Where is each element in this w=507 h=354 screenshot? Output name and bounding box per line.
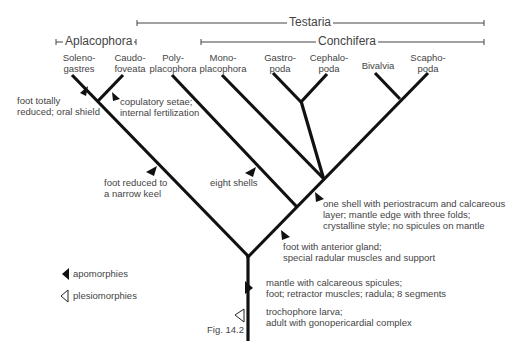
figure-label: Fig. 14.2: [207, 324, 244, 335]
taxon-line: Poly-: [145, 52, 201, 63]
character-line: copulatory setae;: [120, 96, 199, 107]
character-line: foot totally: [17, 95, 100, 106]
taxon-line: Gastro-: [260, 52, 300, 63]
character-testaria: foot with anterior gland; special radula…: [283, 241, 435, 263]
character-aplacophora: foot reduced to a narrow keel: [104, 177, 167, 199]
character-line: layer; mantle edge with three folds;: [323, 209, 505, 220]
character-line: crystalline style; no spicules on mantle: [323, 220, 505, 231]
group-label-testaria: Testaria: [287, 16, 333, 29]
taxon-line: gastres: [54, 63, 104, 74]
taxon-line: poda: [408, 63, 448, 74]
taxon-line: Mono-: [198, 52, 248, 63]
character-caudofoveata: copulatory setae; internal fertilization: [120, 96, 199, 118]
character-line: a narrow keel: [104, 188, 167, 199]
character-line: foot with anterior gland;: [283, 241, 435, 252]
legend-plesiomorphies: plesiomorphies: [73, 290, 137, 301]
character-line: trochophore larva;: [266, 306, 412, 317]
character-line: foot; retractor muscles; radula; 8 segme…: [266, 288, 446, 299]
group-label-conchifera: Conchifera: [316, 35, 378, 48]
taxon-line: placophora: [145, 63, 201, 74]
character-solenogastres: foot totally reduced; oral shield: [17, 95, 100, 117]
taxon-line: placophora: [198, 63, 248, 74]
taxon-monoplacophora: Mono- placophora: [198, 52, 248, 74]
taxon-scaphopoda: Scapho- poda: [408, 52, 448, 74]
character-line: mantle with calcareous spicules;: [266, 277, 446, 288]
character-line: one shell with periostracum and calcareo…: [323, 198, 505, 209]
taxon-gastropoda: Gastro- poda: [260, 52, 300, 74]
taxon-cephalopoda: Cephalo- poda: [306, 52, 352, 74]
character-line: special radular muscles and support: [283, 252, 435, 263]
character-line: eight shells: [210, 177, 258, 188]
character-mollusca-apomorphies: mantle with calcareous spicules; foot; r…: [266, 277, 446, 299]
taxon-bivalvia: Bivalvia: [356, 60, 400, 71]
taxon-line: poda: [260, 63, 300, 74]
character-line: adult with gonopericardial complex: [266, 317, 412, 328]
character-line: internal fertilization: [120, 107, 199, 118]
taxon-polyplacophora: Poly- placophora: [145, 52, 201, 74]
character-polyplacophora: eight shells: [210, 177, 258, 188]
taxon-solenogastres: Soleno- gastres: [54, 52, 104, 74]
taxon-line: Cephalo-: [306, 52, 352, 63]
taxon-line: Bivalvia: [356, 60, 400, 71]
character-line: reduced; oral shield: [17, 106, 100, 117]
character-conchifera: one shell with periostracum and calcareo…: [323, 198, 505, 231]
character-line: foot reduced to: [104, 177, 167, 188]
taxon-line: Soleno-: [54, 52, 104, 63]
taxon-line: Scapho-: [408, 52, 448, 63]
character-mollusca-plesiomorphies: trochophore larva; adult with gonoperica…: [266, 306, 412, 328]
taxon-line: poda: [306, 63, 352, 74]
legend-apomorphies: apomorphies: [73, 268, 128, 279]
group-label-aplacophora: Aplacophora: [63, 35, 134, 48]
